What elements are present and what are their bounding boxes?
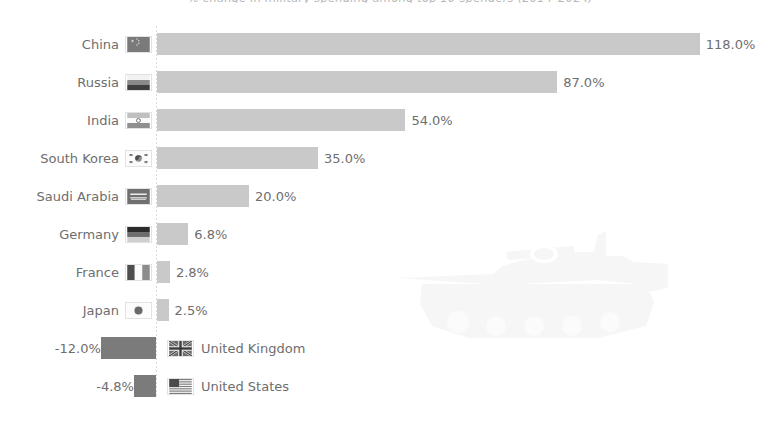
bar-chart: % change in military spending among top …: [0, 0, 781, 429]
bar-positive: [157, 109, 405, 131]
bar-positive: [157, 147, 318, 169]
value-label: 87.0%: [556, 63, 604, 101]
category-label: China: [82, 38, 119, 51]
value-label: -4.8%: [0, 367, 142, 405]
category-label: France: [76, 266, 119, 279]
value-label: 2.8%: [169, 253, 209, 291]
value-label: 35.0%: [317, 139, 365, 177]
value-label: 2.5%: [168, 291, 208, 329]
bar-row: Germany6.8%: [0, 215, 781, 253]
row-label-group: Russia: [77, 63, 152, 101]
france-flag: [125, 264, 152, 281]
category-label: India: [87, 114, 119, 127]
bar-positive: [157, 71, 557, 93]
category-label: Germany: [59, 228, 119, 241]
saudi-arabia-flag: [125, 188, 152, 205]
value-label: 118.0%: [699, 25, 756, 63]
bar-row: United States-4.8%: [0, 367, 781, 405]
category-label: United Kingdom: [201, 342, 305, 355]
value-label: 54.0%: [404, 101, 452, 139]
row-label-group: United Kingdom: [167, 329, 305, 367]
category-label: South Korea: [40, 152, 119, 165]
japan-flag: [125, 302, 152, 319]
value-label: 20.0%: [248, 177, 296, 215]
south-korea-flag: [125, 150, 152, 167]
bar-row: India54.0%: [0, 101, 781, 139]
value-label: 6.8%: [187, 215, 227, 253]
row-label-group: Germany: [59, 215, 152, 253]
united-kingdom-flag: [167, 340, 194, 357]
india-flag: [125, 112, 152, 129]
bar-row: China118.0%: [0, 25, 781, 63]
russia-flag: [125, 74, 152, 91]
china-flag: [125, 36, 152, 53]
bar-negative: [101, 337, 156, 359]
category-label: Japan: [83, 304, 119, 317]
bar-row: South Korea35.0%: [0, 139, 781, 177]
row-label-group: South Korea: [40, 139, 152, 177]
bar-row: France2.8%: [0, 253, 781, 291]
category-label: Saudi Arabia: [37, 190, 120, 203]
category-label: United States: [201, 380, 289, 393]
plot-area: China118.0%Russia87.0%India54.0%South Ko…: [0, 22, 781, 412]
bar-positive: [157, 33, 700, 55]
row-label-group: France: [76, 253, 152, 291]
value-label: -12.0%: [0, 329, 109, 367]
united-states-flag: [167, 378, 194, 395]
bar-positive: [157, 223, 188, 245]
germany-flag: [125, 226, 152, 243]
bar-row: United Kingdom-12.0%: [0, 329, 781, 367]
row-label-group: Saudi Arabia: [37, 177, 153, 215]
category-label: Russia: [77, 76, 119, 89]
bar-row: Russia87.0%: [0, 63, 781, 101]
row-label-group: Japan: [83, 291, 152, 329]
row-label-group: China: [82, 25, 152, 63]
row-label-group: India: [87, 101, 152, 139]
chart-title: % change in military spending among top …: [0, 0, 781, 3]
bar-row: Japan2.5%: [0, 291, 781, 329]
bar-positive: [157, 185, 249, 207]
row-label-group: United States: [167, 367, 289, 405]
bar-row: Saudi Arabia20.0%: [0, 177, 781, 215]
